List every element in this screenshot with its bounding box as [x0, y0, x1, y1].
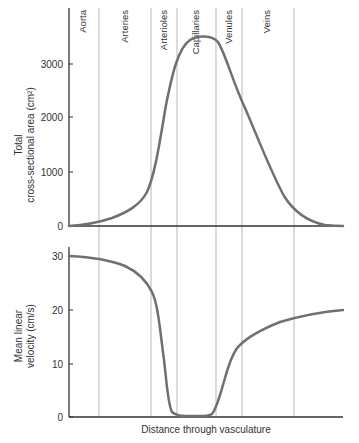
top-y-title-line2: cross-sectional area (cm²) [25, 87, 36, 203]
segment-label-arteries: Arteries [119, 10, 130, 43]
segment-label-arterioles: Arterioles [158, 10, 169, 50]
vasculature-figure: Aorta Arteries Arterioles Capillaries Ve… [0, 0, 359, 443]
segment-label-aorta: Aorta [77, 9, 88, 32]
top-tick-1000: 1000 [41, 167, 64, 178]
x-axis-title: Distance through vasculature [141, 424, 271, 435]
segment-label-venules: Venules [223, 10, 234, 44]
bottom-tick-0: 0 [57, 412, 63, 423]
segment-label-capillaries: Capillaries [190, 10, 201, 55]
cross-sectional-area-curve [69, 36, 343, 226]
bottom-y-title-line1: Mean linear [13, 309, 24, 362]
mean-velocity-curve [69, 256, 343, 416]
bottom-tick-20: 20 [52, 305, 64, 316]
top-y-title-line1: Total [13, 134, 24, 155]
top-tick-2000: 2000 [41, 112, 64, 123]
segment-labels: Aorta Arteries Arterioles Capillaries Ve… [77, 9, 272, 54]
bottom-y-title-line2: velocity (cm/s) [25, 304, 36, 368]
top-tick-0: 0 [57, 221, 63, 232]
segment-label-veins: Veins [261, 10, 272, 33]
top-tick-3000: 3000 [41, 59, 64, 70]
bottom-tick-10: 10 [52, 359, 64, 370]
bottom-tick-30: 30 [52, 251, 64, 262]
segment-dividers [99, 8, 294, 417]
